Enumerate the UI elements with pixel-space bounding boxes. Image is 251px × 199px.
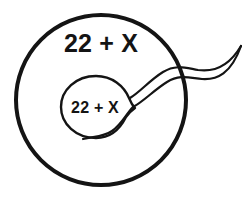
fertilization-illustration: 22 + X 22 + X: [0, 0, 251, 199]
fertilization-diagram: 22 + X 22 + X: [0, 0, 251, 199]
egg-cell-label: 22 + X: [64, 29, 138, 57]
sperm-cell-label: 22 + X: [71, 99, 119, 116]
